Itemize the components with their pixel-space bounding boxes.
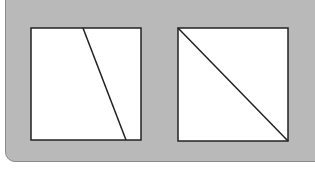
right-square	[178, 28, 288, 141]
square	[31, 28, 141, 140]
figure-canvas	[0, 0, 315, 171]
left-square	[31, 28, 141, 140]
